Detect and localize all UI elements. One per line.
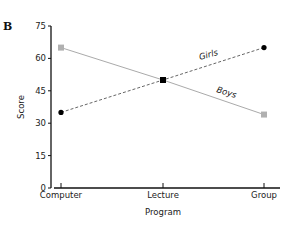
y-tick-label: 30	[35, 118, 46, 128]
marker-boys	[261, 112, 267, 118]
series-label-girls: Girls	[198, 47, 220, 62]
marker-girls	[58, 110, 63, 115]
marker-shared	[160, 77, 166, 83]
marker-boys	[58, 45, 64, 51]
panel-label: B	[3, 20, 12, 33]
x-axis: ComputerLectureGroup	[40, 183, 280, 200]
x-tick-label: Lecture	[147, 190, 179, 200]
y-tick-label: 15	[35, 151, 46, 161]
line-chart: B 01530456075 ComputerLectureGroup Score…	[0, 0, 291, 227]
series-label-boys: Boys	[215, 84, 238, 100]
series-markers	[58, 45, 267, 118]
x-tick-label: Computer	[40, 190, 83, 200]
x-axis-title: Program	[145, 207, 181, 217]
y-axis: 01530456075	[35, 21, 51, 193]
y-axis-title: Score	[16, 95, 26, 119]
y-tick-label: 45	[35, 86, 46, 96]
marker-girls	[261, 45, 266, 50]
y-tick-label: 75	[35, 21, 46, 31]
x-tick-label: Group	[251, 190, 277, 200]
y-tick-label: 60	[35, 53, 46, 63]
